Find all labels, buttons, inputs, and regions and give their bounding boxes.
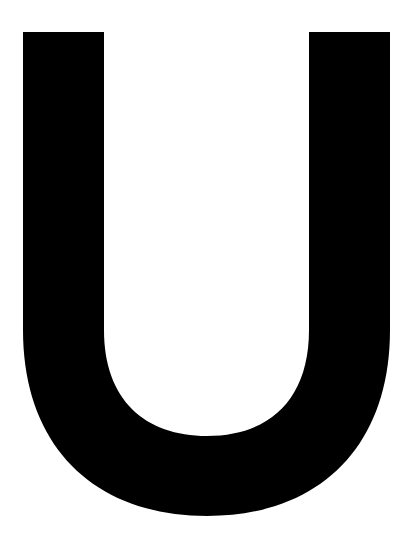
letter-u-glyph: U [0,0,415,541]
letter-u-icon [0,0,415,541]
